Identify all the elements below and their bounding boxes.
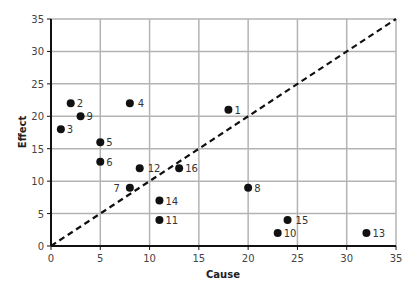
point-marker bbox=[155, 216, 163, 224]
data-point: 13 bbox=[362, 228, 385, 239]
point-label: 4 bbox=[138, 98, 144, 109]
point-marker bbox=[67, 99, 75, 107]
data-point: 5 bbox=[96, 137, 112, 148]
point-marker bbox=[136, 164, 144, 172]
point-marker bbox=[362, 229, 370, 237]
point-label: 13 bbox=[372, 228, 385, 239]
point-marker bbox=[96, 138, 104, 146]
data-point: 14 bbox=[155, 196, 178, 207]
point-label: 15 bbox=[296, 215, 309, 226]
point-label: 6 bbox=[106, 157, 112, 168]
diagonal-dashed-line bbox=[51, 19, 396, 246]
point-label: 11 bbox=[165, 215, 178, 226]
point-label: 10 bbox=[284, 228, 297, 239]
point-marker bbox=[57, 125, 65, 133]
x-tick-label: 15 bbox=[192, 253, 205, 264]
data-point: 2 bbox=[67, 98, 83, 109]
y-tick-label: 15 bbox=[31, 144, 44, 155]
y-axis-label: Effect bbox=[17, 116, 28, 149]
y-tick-label: 20 bbox=[31, 111, 44, 122]
y-tick-label: 25 bbox=[31, 79, 44, 90]
y-tick-label: 30 bbox=[31, 46, 44, 57]
data-point: 16 bbox=[175, 163, 198, 174]
x-axis-label: Cause bbox=[206, 269, 240, 280]
point-marker bbox=[224, 106, 232, 114]
point-marker bbox=[77, 112, 85, 120]
scatter-chart: 0510152025303505101520253035 12345678910… bbox=[0, 0, 417, 288]
data-point: 4 bbox=[126, 98, 144, 109]
data-point: 10 bbox=[274, 228, 297, 239]
point-label: 2 bbox=[77, 98, 83, 109]
x-tick-label: 5 bbox=[97, 253, 103, 264]
x-tick-label: 35 bbox=[390, 253, 403, 264]
data-point: 15 bbox=[284, 215, 309, 226]
point-label: 16 bbox=[185, 163, 198, 174]
point-marker bbox=[96, 158, 104, 166]
point-marker bbox=[274, 229, 282, 237]
data-point: 3 bbox=[57, 124, 73, 135]
point-label: 8 bbox=[254, 183, 260, 194]
point-marker bbox=[244, 184, 252, 192]
point-label: 5 bbox=[106, 137, 112, 148]
y-tick-label: 10 bbox=[31, 176, 44, 187]
point-label: 1 bbox=[234, 105, 240, 116]
point-label: 14 bbox=[165, 196, 178, 207]
data-point: 1 bbox=[224, 105, 240, 116]
reference-diagonal-line bbox=[51, 19, 396, 246]
point-marker bbox=[175, 164, 183, 172]
point-label: 12 bbox=[148, 163, 161, 174]
point-label: 9 bbox=[87, 111, 93, 122]
data-point: 11 bbox=[155, 215, 178, 226]
y-tick-label: 5 bbox=[38, 209, 44, 220]
point-marker bbox=[155, 197, 163, 205]
point-label: 3 bbox=[67, 124, 73, 135]
data-point: 6 bbox=[96, 157, 112, 168]
data-point: 12 bbox=[136, 163, 161, 174]
data-points: 12345678910111213141516 bbox=[57, 98, 385, 239]
y-tick-label: 35 bbox=[31, 14, 44, 25]
x-tick-label: 20 bbox=[242, 253, 255, 264]
point-marker bbox=[126, 184, 134, 192]
point-marker bbox=[284, 216, 292, 224]
x-tick-label: 10 bbox=[143, 253, 156, 264]
point-label: 7 bbox=[113, 183, 119, 194]
x-tick-label: 30 bbox=[340, 253, 353, 264]
y-tick-label: 0 bbox=[38, 241, 44, 252]
x-tick-label: 25 bbox=[291, 253, 304, 264]
x-tick-label: 0 bbox=[48, 253, 54, 264]
data-point: 7 bbox=[113, 183, 133, 194]
data-point: 8 bbox=[244, 183, 260, 194]
point-marker bbox=[126, 99, 134, 107]
